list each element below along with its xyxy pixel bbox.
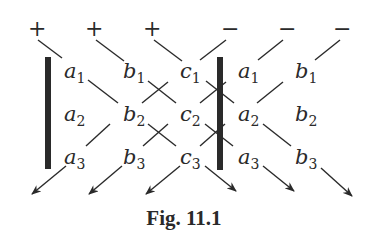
minus-signs: − − − [221,16,351,41]
row-2: a2 b2 c2 a2 b2 [64,102,317,129]
element-label: a2 [64,102,85,129]
element-label: c2 [180,102,201,129]
element-label: b3 [123,145,145,172]
element-label: c1 [180,59,201,86]
row-1: a1 b1 c1 a1 b1 [64,59,317,86]
figure-caption: Fig. 11.1 [0,206,368,231]
left-determinant-bar [45,57,51,169]
element-label: b1 [123,59,145,86]
element-label: b2 [123,102,145,129]
row-3: a3 b3 c3 a3 b3 [64,145,317,172]
minus-sign: − [333,16,351,41]
element-label: a3 [64,145,85,172]
minus-sign: − [278,16,296,41]
element-label: c3 [180,145,201,172]
element-label: b2 [295,102,317,129]
plus-sign: + [28,16,46,41]
minus-sign: − [221,16,239,41]
element-label: a3 [238,145,259,172]
plus-signs: + + + [28,16,161,41]
right-determinant-bar [217,57,223,170]
element-label: b1 [295,59,317,86]
element-label: a2 [238,102,259,129]
determinant-sarrus-diagram: + + + − − − [0,0,368,240]
plus-sign: + [143,16,161,41]
element-label: b3 [295,145,317,172]
plus-sign: + [85,16,103,41]
element-label: a1 [64,59,85,86]
element-label: a1 [238,59,259,86]
